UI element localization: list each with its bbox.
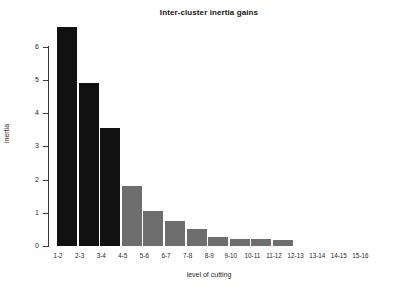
bar: [165, 221, 185, 246]
bar: [230, 239, 250, 246]
y-tick-mark: [43, 113, 48, 114]
bar: [251, 239, 271, 246]
bar: [100, 128, 120, 246]
y-tick-label: 4: [0, 109, 39, 116]
y-tick-label: 5: [0, 76, 39, 83]
y-tick-mark: [43, 47, 48, 48]
bar: [208, 237, 228, 246]
chart-title: Inter-cluster inertia gains: [0, 8, 418, 17]
bar: [187, 229, 207, 246]
y-tick-label: 3: [0, 142, 39, 149]
y-tick-label: 6: [0, 43, 39, 50]
y-tick-mark: [43, 213, 48, 214]
y-tick-label: 1: [0, 209, 39, 216]
y-tick-mark: [43, 246, 48, 247]
y-tick-label: 2: [0, 176, 39, 183]
bar-series: [57, 20, 397, 246]
bar: [122, 186, 142, 246]
y-tick-mark: [43, 80, 48, 81]
y-tick-mark: [43, 146, 48, 147]
x-axis-label: level of cutting: [0, 271, 418, 278]
y-tick-label: 0: [0, 242, 39, 249]
y-axis-label: inertia: [3, 94, 10, 174]
bar: [57, 27, 77, 246]
x-axis-tick-labels: 1-22-33-44-55-66-77-88-99-1010-1111-1212…: [50, 252, 418, 264]
bar: [273, 240, 293, 246]
bar: [143, 211, 163, 246]
chart-figure: Inter-cluster inertia gains inertia 0123…: [0, 0, 418, 295]
bar: [79, 83, 99, 246]
y-axis-line: [48, 46, 49, 247]
y-tick-mark: [43, 180, 48, 181]
x-tick-label: 15-16: [343, 252, 377, 259]
